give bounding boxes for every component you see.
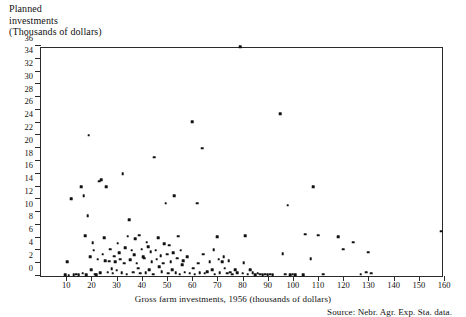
- y-axis-title-block: Planned investments (Thousands of dollar…: [9, 3, 102, 38]
- x-axis-tick-label: 150: [412, 281, 425, 290]
- data-point: [91, 241, 94, 244]
- x-axis-tick-label: 140: [387, 281, 400, 290]
- data-point: [80, 185, 83, 188]
- data-point: [139, 272, 142, 275]
- data-point: [143, 257, 146, 260]
- data-point: [159, 254, 162, 257]
- data-point: [279, 112, 282, 115]
- y-axis-tick: [35, 198, 41, 199]
- data-point: [244, 234, 247, 237]
- data-point: [83, 194, 86, 197]
- y-axis-tick: [35, 160, 41, 161]
- data-point: [242, 261, 245, 264]
- data-point: [161, 270, 164, 273]
- data-point: [271, 273, 274, 276]
- y-axis-tick-label: 6: [29, 225, 33, 234]
- scatter-plot-figure: Planned investments (Thousands of dollar…: [0, 0, 466, 317]
- data-point: [138, 234, 141, 237]
- x-axis-title: Gross farm investments, 1956 (thousands …: [0, 294, 466, 304]
- data-point: [89, 256, 92, 259]
- data-point: [119, 258, 122, 261]
- data-point: [249, 268, 252, 271]
- data-point: [90, 268, 93, 271]
- data-point: [178, 273, 181, 276]
- y-axis-tick: [35, 237, 41, 238]
- data-point: [151, 261, 154, 264]
- data-point: [114, 261, 117, 264]
- data-point: [191, 121, 194, 124]
- x-axis-tick-label: 20: [87, 281, 96, 290]
- data-point: [192, 267, 195, 270]
- y-axis-tick: [35, 224, 41, 225]
- data-point: [241, 272, 244, 275]
- data-point: [183, 271, 186, 274]
- data-point: [117, 242, 120, 245]
- data-point: [342, 248, 345, 251]
- data-point: [337, 236, 340, 239]
- y-axis-tick-label: 26: [25, 97, 34, 106]
- data-point: [129, 259, 132, 262]
- data-point: [234, 268, 237, 271]
- y-axis-title-line-2: investments: [9, 15, 102, 27]
- data-point: [110, 268, 113, 271]
- data-point: [365, 271, 368, 274]
- data-point: [177, 235, 180, 238]
- data-point: [239, 45, 242, 48]
- data-point: [174, 272, 177, 275]
- data-point: [164, 202, 167, 205]
- y-axis-tick-label: 28: [25, 85, 34, 94]
- data-point: [166, 253, 169, 256]
- data-point: [162, 262, 165, 265]
- x-axis-tick-label: 10: [62, 281, 71, 290]
- y-axis-tick-label: 8: [29, 212, 33, 221]
- data-point: [198, 272, 201, 275]
- data-point: [231, 273, 234, 276]
- y-axis-tick-label: 18: [25, 149, 34, 158]
- data-point: [171, 268, 174, 271]
- data-point: [213, 273, 216, 276]
- y-axis-tick: [35, 134, 41, 135]
- y-axis-tick: [35, 45, 41, 46]
- data-point: [120, 272, 123, 275]
- data-point: [135, 262, 138, 265]
- data-point: [100, 178, 103, 181]
- x-axis-tick-label: 160: [438, 281, 451, 290]
- data-point: [81, 272, 84, 275]
- data-point: [246, 273, 249, 276]
- y-axis-tick: [35, 71, 41, 72]
- data-point: [104, 259, 107, 262]
- data-point: [149, 250, 152, 253]
- y-axis-tick-label: 0: [29, 264, 33, 273]
- data-point: [128, 218, 131, 221]
- data-point: [312, 185, 315, 188]
- x-axis-tick-label: 30: [112, 281, 121, 290]
- data-point: [236, 272, 239, 275]
- data-point: [202, 253, 205, 256]
- data-point: [93, 249, 96, 252]
- data-point: [85, 273, 88, 276]
- y-axis-tick-label: 10: [25, 200, 34, 209]
- data-point: [282, 252, 285, 255]
- data-point: [294, 273, 297, 276]
- x-axis-tick-label: 110: [312, 281, 324, 290]
- data-point: [211, 268, 214, 271]
- data-point: [67, 274, 70, 277]
- data-point: [145, 241, 148, 244]
- data-point: [106, 271, 109, 274]
- data-point: [227, 259, 230, 262]
- data-point: [118, 252, 121, 255]
- data-point: [317, 234, 320, 237]
- x-axis-tick-label: 120: [337, 281, 350, 290]
- data-point: [105, 185, 108, 188]
- data-point: [219, 272, 222, 275]
- x-axis-tick-label: 70: [213, 281, 222, 290]
- data-point: [77, 273, 80, 276]
- data-point: [123, 262, 126, 265]
- data-point: [137, 267, 140, 270]
- data-point: [124, 247, 127, 250]
- data-point: [302, 273, 305, 276]
- data-point: [440, 230, 443, 233]
- y-axis-title-line-1: Planned: [9, 3, 102, 15]
- data-point: [193, 273, 196, 276]
- data-point: [352, 241, 355, 244]
